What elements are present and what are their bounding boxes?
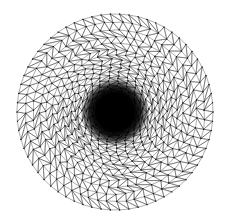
- dense-core-blob: [81, 78, 149, 146]
- mesh-figure: [0, 0, 225, 219]
- mesh-canvas: [0, 0, 225, 219]
- mesh-dense-core: [81, 78, 149, 146]
